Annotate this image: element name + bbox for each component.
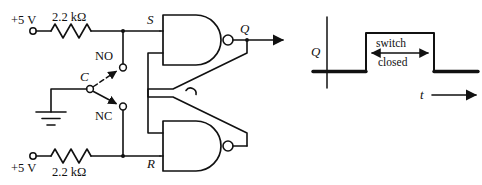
top-resistor-symbol bbox=[51, 24, 91, 38]
top-resistor-label: 2.2 kΩ bbox=[52, 11, 86, 24]
switch-no-label: NO bbox=[95, 50, 113, 63]
nand-gate-top bbox=[160, 15, 283, 65]
top-supply-branch bbox=[30, 24, 160, 38]
nand-top-inversion-bubble bbox=[223, 35, 233, 45]
switch-common-label: C bbox=[80, 70, 89, 83]
switch-closed-label-line2: closed bbox=[378, 57, 407, 69]
top-supply-terminal bbox=[30, 28, 36, 34]
q-output-label: Q bbox=[240, 22, 249, 35]
switch-throw-no[interactable] bbox=[94, 72, 117, 87]
wire-crossing-hop bbox=[186, 88, 196, 94]
figure-root: +5 V 2.2 kΩ +5 V 2.2 kΩ NO NC C S R Q Q … bbox=[0, 0, 482, 185]
set-node-label: S bbox=[147, 13, 154, 26]
crossing-hop-arc bbox=[186, 88, 196, 94]
bottom-supply-terminal bbox=[30, 153, 36, 159]
switch-closed-label-line1: switch bbox=[376, 38, 406, 50]
bottom-resistor-symbol bbox=[51, 149, 91, 163]
q-tap-dot bbox=[245, 38, 249, 42]
nand-gate-bottom bbox=[160, 121, 233, 171]
nand-bottom-inversion-bubble bbox=[223, 141, 233, 151]
nand-bottom-body bbox=[163, 121, 221, 171]
switch-common-terminal[interactable] bbox=[87, 86, 94, 93]
top-supply-label: +5 V bbox=[11, 14, 36, 27]
timing-x-axis-label: t bbox=[420, 88, 424, 101]
switch-nc-label: NC bbox=[95, 110, 112, 123]
switch-contact-nc[interactable] bbox=[120, 103, 127, 110]
nand-top-body bbox=[163, 15, 221, 65]
spdt-switch[interactable] bbox=[87, 64, 127, 110]
bottom-supply-branch bbox=[30, 149, 160, 163]
bottom-resistor-label: 2.2 kΩ bbox=[52, 166, 86, 179]
reset-node-label: R bbox=[147, 157, 155, 170]
bottom-supply-label: +5 V bbox=[11, 162, 36, 175]
ground-wire bbox=[51, 89, 87, 112]
ground-connection bbox=[36, 89, 87, 125]
switch-throw-nc[interactable] bbox=[94, 92, 117, 104]
timing-y-axis-label: Q bbox=[311, 45, 320, 58]
switch-contact-no[interactable] bbox=[120, 64, 127, 71]
